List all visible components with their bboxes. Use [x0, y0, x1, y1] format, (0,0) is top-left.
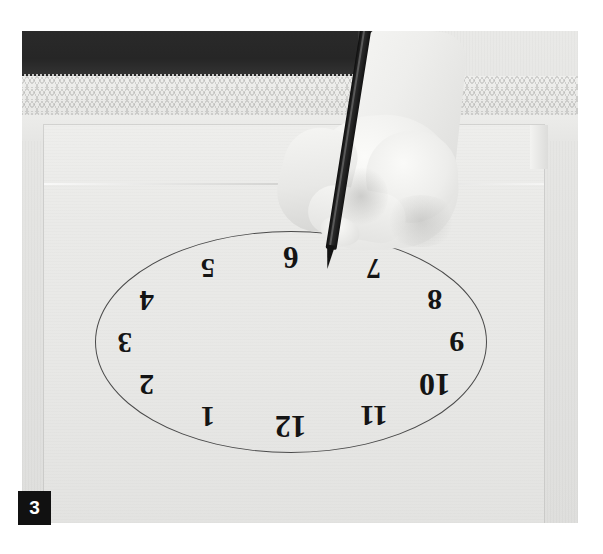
hand-shadow-lower — [384, 195, 458, 247]
clock-numeral-4: 4 — [140, 285, 154, 314]
clock-numeral-1: 1 — [201, 401, 215, 430]
figure-page: 678910111212345 3 — [0, 0, 603, 554]
clock-numeral-9: 9 — [450, 327, 465, 357]
clock-numeral-2: 2 — [140, 370, 155, 400]
pencil-tip — [323, 245, 335, 270]
paper-edge-right — [530, 125, 548, 169]
clock-numeral-8: 8 — [428, 285, 443, 315]
photograph: 678910111212345 — [22, 31, 578, 523]
clock-numeral-11: 11 — [360, 401, 387, 431]
clock-numeral-5: 5 — [201, 254, 215, 282]
clock-numeral-12: 12 — [276, 411, 307, 443]
clock-numeral-3: 3 — [118, 328, 132, 357]
clock-numeral-10: 10 — [419, 369, 450, 401]
figure-number-badge: 3 — [18, 491, 51, 525]
hand — [274, 69, 464, 265]
